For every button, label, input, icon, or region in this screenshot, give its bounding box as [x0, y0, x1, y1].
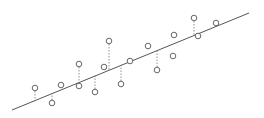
- data-point: [170, 53, 176, 59]
- data-point: [106, 38, 112, 44]
- data-point: [101, 64, 107, 70]
- data-point: [191, 15, 197, 21]
- data-point: [76, 61, 82, 67]
- data-point: [58, 82, 64, 88]
- data-point: [213, 20, 219, 26]
- data-point: [127, 58, 133, 64]
- data-point: [171, 32, 177, 38]
- data-point: [118, 81, 124, 87]
- residual-lines: [35, 21, 194, 101]
- data-point: [145, 43, 151, 49]
- data-points: [32, 15, 219, 106]
- data-point: [76, 83, 82, 89]
- data-point: [32, 85, 38, 91]
- regression-diagram: [0, 0, 264, 118]
- data-point: [49, 100, 55, 106]
- data-point: [195, 33, 201, 39]
- data-point: [154, 67, 160, 73]
- data-point: [92, 89, 98, 95]
